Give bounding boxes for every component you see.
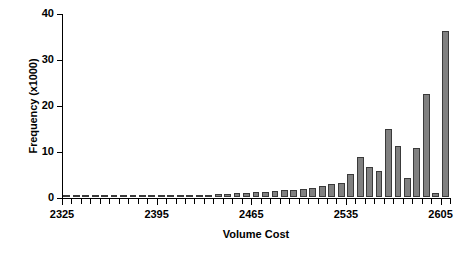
bar [139,195,146,197]
x-tick-mark [450,199,451,204]
bar [385,129,392,197]
x-tick-mark [232,199,233,204]
x-tick-mark [81,199,82,204]
bar [338,183,345,197]
bar [328,184,335,197]
y-tick-mark [57,152,62,153]
bar [177,195,184,197]
bar [92,195,99,197]
bar [423,94,430,197]
bar [253,192,260,197]
x-tick-label: 2605 [428,208,452,220]
x-tick-mark [280,199,281,204]
bar [215,194,222,197]
x-tick-mark [100,199,101,204]
x-tick-mark [109,199,110,204]
x-tick-mark-major [441,199,442,205]
x-tick-mark [374,199,375,204]
y-tick-label: 10 [42,145,54,157]
y-tick-mark [57,14,62,15]
bar [272,191,279,197]
x-tick-mark [412,199,413,204]
bar [243,193,250,197]
x-tick-mark [261,199,262,204]
x-tick-mark [138,199,139,204]
x-tick-mark [327,199,328,204]
bar [413,148,420,197]
x-tick-mark [128,199,129,204]
bar [63,195,70,197]
bar [73,195,80,197]
x-tick-mark [147,199,148,204]
x-tick-mark [393,199,394,204]
bar [442,31,449,197]
bar [290,190,297,197]
bar [82,195,89,197]
x-tick-mark [318,199,319,204]
x-tick-mark [90,199,91,204]
x-axis-title: Volume Cost [62,228,450,240]
x-tick-mark [289,199,290,204]
x-tick-mark [242,199,243,204]
x-tick-label: 2535 [334,208,358,220]
x-tick-mark [166,199,167,204]
y-tick-label: 30 [42,53,54,65]
histogram-figure: Frequency (x1000) 010203040 232523952465… [0,0,472,256]
x-tick-mark [223,199,224,204]
y-tick-mark [57,106,62,107]
bar [130,195,137,197]
x-tick-mark [176,199,177,204]
bar [234,193,241,197]
bar [158,195,165,197]
x-tick-mark-major [62,199,63,205]
bar [167,195,174,197]
x-tick-mark [213,199,214,204]
x-tick-mark [185,199,186,204]
x-tick-mark-major [157,199,158,205]
x-tick-mark [270,199,271,204]
y-tick-label: 20 [42,99,54,111]
bar [186,195,193,197]
x-tick-mark [384,199,385,204]
x-tick-mark [308,199,309,204]
x-tick-mark [365,199,366,204]
x-tick-label: 2325 [50,208,74,220]
x-tick-mark [431,199,432,204]
y-tick-label: 40 [42,7,54,19]
plot-area: 010203040 23252395246525352605 [62,14,450,198]
x-tick-mark [71,199,72,204]
y-axis-line [62,14,63,199]
y-tick-label: 0 [48,191,54,203]
bar [357,157,364,197]
bar [309,188,316,197]
x-tick-mark [403,199,404,204]
bar [148,195,155,197]
x-tick-mark [194,199,195,204]
bar [376,171,383,197]
bar [404,178,411,197]
bar [111,195,118,197]
x-tick-mark-major [251,199,252,205]
bar [120,195,127,197]
x-tick-mark [204,199,205,204]
x-tick-label: 2465 [239,208,263,220]
bar [224,194,231,197]
x-tick-mark-major [346,199,347,205]
bar [347,174,354,197]
bar [366,167,373,197]
y-tick-mark [57,60,62,61]
bar [281,190,288,197]
x-tick-mark [336,199,337,204]
x-tick-label: 2395 [144,208,168,220]
bar [300,189,307,197]
bar [262,192,269,197]
bar [319,186,326,197]
bar [205,195,212,197]
y-axis-title: Frequency (x1000) [27,21,39,191]
x-tick-mark [119,199,120,204]
bar [395,146,402,197]
bar [196,195,203,197]
x-tick-mark [422,199,423,204]
bar [432,193,439,197]
bar [101,195,108,197]
